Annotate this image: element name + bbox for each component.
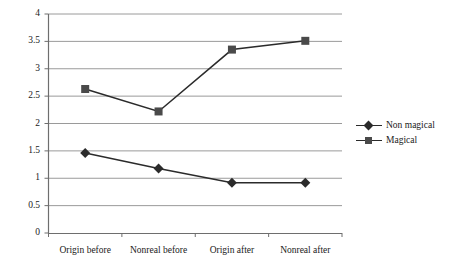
y-axis-tick-label: 2 [14, 119, 40, 129]
x-axis-category-label-text: Nonreal before [130, 245, 187, 255]
legend-swatch-square-icon [356, 134, 382, 147]
data-point-square [155, 107, 163, 115]
x-axis-category-origin-before: Origin before [49, 239, 122, 253]
y-axis-tick-label: 4 [14, 9, 40, 19]
y-axis-tick-label-text: 4 [14, 9, 40, 19]
series-line-magical [85, 41, 305, 112]
y-axis-tick-label-text: 0.5 [14, 201, 40, 211]
data-point-square [81, 85, 89, 93]
legend-item-magical: Magical [356, 133, 451, 148]
y-axis-tick-label: 0 [14, 228, 40, 238]
y-axis-tick-label: 3 [14, 64, 40, 74]
gridlines [49, 14, 343, 233]
data-point-diamond [154, 163, 164, 173]
y-axis-tick-label-text: 3 [14, 64, 40, 74]
x-axis-category-nonreal-after: Nonreal after [269, 239, 342, 253]
x-axis-category-label-text: Origin after [210, 245, 255, 255]
legend-swatch-diamond-icon [356, 119, 382, 132]
y-axis-tick-label-text: 1 [14, 173, 40, 183]
legend-item-non-magical: Non magical [356, 118, 451, 133]
data-point-square [301, 37, 309, 45]
data-point-diamond [80, 148, 90, 158]
y-axis-tick-label: 3.5 [14, 36, 40, 46]
y-axis-tick-label-text: 3.5 [14, 36, 40, 46]
y-axis-tick-label: 2.5 [14, 91, 40, 101]
x-axis-category-nonreal-before: Nonreal before [122, 239, 195, 253]
y-axis-tick-label-text: 2 [14, 119, 40, 129]
chart-legend: Non magical Magical [356, 118, 451, 148]
data-series-layer [80, 37, 310, 188]
y-axis-tick-label-text: 2.5 [14, 91, 40, 101]
y-axis-tick-label: 1.5 [14, 146, 40, 156]
line-chart: 00.511.522.533.54 Origin beforeNonreal b… [0, 0, 451, 262]
y-axis-tick-label-text: 1.5 [14, 146, 40, 156]
x-axis-category-label-text: Nonreal after [280, 245, 330, 255]
data-point-diamond [227, 178, 237, 188]
y-axis-tick-label: 1 [14, 173, 40, 183]
legend-label: Magical [382, 134, 417, 147]
y-axis-tick-label: 0.5 [14, 201, 40, 211]
x-axis-category-origin-after: Origin after [195, 239, 268, 253]
y-axis-tick-label-text: 0 [14, 228, 40, 238]
x-axis-category-label-text: Origin before [59, 245, 110, 255]
data-point-diamond [300, 178, 310, 188]
data-point-square [228, 46, 236, 54]
legend-label: Non magical [382, 119, 435, 132]
